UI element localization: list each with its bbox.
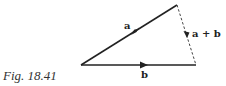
vector-a-plus-b-label: a + b	[192, 28, 221, 39]
figure-caption: Fig. 18.41	[2, 68, 57, 83]
vector-a-plus-b-arrowhead-icon	[184, 31, 190, 38]
vector-a-line	[81, 5, 177, 65]
vector-b-label: b	[141, 69, 148, 80]
vector-a-label: a	[124, 20, 131, 31]
vector-b-arrowhead-icon	[140, 62, 148, 69]
vector-triangle-diagram: a a + b b Fig. 18.41	[0, 0, 226, 86]
